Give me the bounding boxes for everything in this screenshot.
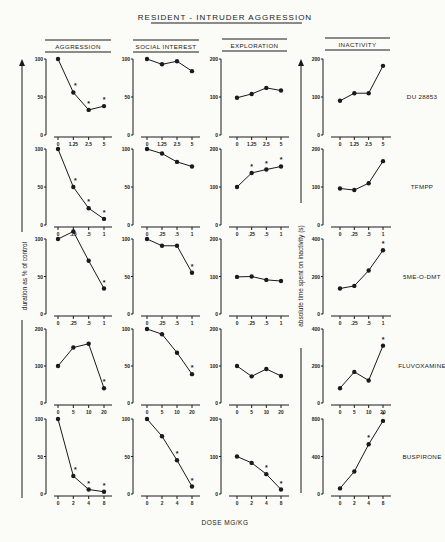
svg-text:2.5: 2.5 xyxy=(174,142,181,147)
svg-text:20: 20 xyxy=(101,410,107,415)
svg-text:200: 200 xyxy=(210,56,219,62)
svg-text:0: 0 xyxy=(339,501,342,506)
column-header-inactivity: INACTIVITY xyxy=(325,38,390,50)
svg-text:0: 0 xyxy=(236,321,239,326)
drug-label: BUSPIRONE xyxy=(402,453,441,460)
data-point xyxy=(366,268,370,272)
data-point xyxy=(102,490,106,494)
svg-text:200: 200 xyxy=(35,326,44,332)
svg-text:100: 100 xyxy=(122,416,131,422)
data-point xyxy=(381,419,385,423)
data-point xyxy=(175,59,179,63)
svg-text:0: 0 xyxy=(317,311,320,317)
y-axis-label-left: duration as % of control xyxy=(21,241,28,310)
svg-text:0: 0 xyxy=(215,400,218,406)
figure-title: RESIDENT - INTRUDER AGGRESSION xyxy=(138,13,312,22)
svg-text:SOCIAL INTEREST: SOCIAL INTEREST xyxy=(136,43,197,50)
svg-text:0: 0 xyxy=(215,132,218,138)
panel-inactivity: 0200400051020* xyxy=(312,326,391,415)
svg-text:0: 0 xyxy=(339,142,342,147)
data-point xyxy=(56,57,60,61)
data-point xyxy=(71,185,75,189)
svg-text:5: 5 xyxy=(161,410,164,415)
data-point xyxy=(145,237,149,241)
svg-text:0: 0 xyxy=(215,491,218,497)
svg-text:1: 1 xyxy=(382,321,385,326)
svg-text:0: 0 xyxy=(236,142,239,147)
svg-text:0: 0 xyxy=(127,311,130,317)
svg-text:2.5: 2.5 xyxy=(85,142,92,147)
svg-text:1: 1 xyxy=(103,321,106,326)
significance-asterisk: * xyxy=(103,96,106,103)
axis-labels: duration as % of controlabsolute time sp… xyxy=(19,59,305,526)
data-point xyxy=(71,345,75,349)
data-point xyxy=(160,62,164,66)
svg-text:50: 50 xyxy=(124,94,130,100)
panel-aggression: 0100200051020* xyxy=(35,326,112,415)
significance-asterisk: * xyxy=(280,156,283,163)
significance-asterisk: * xyxy=(250,163,253,170)
significance-asterisk: * xyxy=(103,209,106,216)
data-point xyxy=(175,350,179,354)
data-point xyxy=(190,164,194,168)
panel-exploration: 01002000.25.51*** xyxy=(210,146,289,237)
data-point xyxy=(381,343,385,347)
data-point xyxy=(338,186,342,190)
panel-exploration: 01002000248** xyxy=(210,416,289,506)
drug-label: DU 28853 xyxy=(407,93,438,100)
svg-text:0: 0 xyxy=(57,232,60,237)
drug-label: 5ME-O-DMT xyxy=(403,273,441,280)
svg-text:5: 5 xyxy=(280,142,283,147)
data-point xyxy=(86,342,90,346)
svg-text:100: 100 xyxy=(312,94,321,100)
svg-text:2: 2 xyxy=(353,501,356,506)
row-5me-o-dmt: 0501000.25.51*0501000.25.51*01002000.25.… xyxy=(35,229,441,326)
svg-text:.25: .25 xyxy=(159,232,166,237)
svg-text:5: 5 xyxy=(382,142,385,147)
significance-asterisk: * xyxy=(103,279,106,286)
data-point xyxy=(235,96,239,100)
data-point xyxy=(279,279,283,283)
data-point xyxy=(279,164,283,168)
svg-text:AGGRESSION: AGGRESSION xyxy=(55,43,101,50)
svg-text:50: 50 xyxy=(37,274,43,280)
svg-text:2.5: 2.5 xyxy=(365,142,372,147)
svg-text:100: 100 xyxy=(35,363,44,369)
data-point xyxy=(338,386,342,390)
data-point xyxy=(56,364,60,368)
svg-text:0: 0 xyxy=(40,311,43,317)
data-point xyxy=(249,92,253,96)
column-header-exploration: EXPLORATION xyxy=(222,39,287,51)
panel-exploration: 0100200051020 xyxy=(210,326,289,415)
data-point xyxy=(145,147,149,151)
data-point xyxy=(145,417,149,421)
significance-asterisk: * xyxy=(87,198,90,205)
svg-text:1: 1 xyxy=(191,321,194,326)
svg-text:INACTIVITY: INACTIVITY xyxy=(338,41,376,48)
data-point xyxy=(366,181,370,185)
panel-inactivity: 01002000.25.51 xyxy=(312,146,391,237)
significance-asterisk: * xyxy=(265,464,268,471)
panel-aggression: 0501000248*** xyxy=(35,416,112,506)
significance-asterisk: * xyxy=(87,100,90,107)
data-point xyxy=(71,474,75,478)
svg-text:.25: .25 xyxy=(248,321,255,326)
panel-exploration: 010020001.252.55 xyxy=(210,56,289,147)
svg-text:.5: .5 xyxy=(367,321,371,326)
svg-text:5: 5 xyxy=(250,410,253,415)
data-point xyxy=(86,206,90,210)
data-point xyxy=(264,472,268,476)
svg-text:.25: .25 xyxy=(70,321,77,326)
svg-text:50: 50 xyxy=(124,184,130,190)
svg-text:200: 200 xyxy=(312,146,321,152)
svg-text:0: 0 xyxy=(317,491,320,497)
svg-text:0: 0 xyxy=(57,321,60,326)
svg-text:.5: .5 xyxy=(87,232,91,237)
data-point xyxy=(160,151,164,155)
svg-text:100: 100 xyxy=(35,416,44,422)
panel-inactivity: 04008000248** xyxy=(312,411,391,506)
svg-text:.25: .25 xyxy=(248,232,255,237)
significance-asterisk: * xyxy=(103,378,106,385)
row-buspirone: 0501000248***0501000248**01002000248**04… xyxy=(35,411,442,506)
significance-asterisk: * xyxy=(103,482,106,489)
